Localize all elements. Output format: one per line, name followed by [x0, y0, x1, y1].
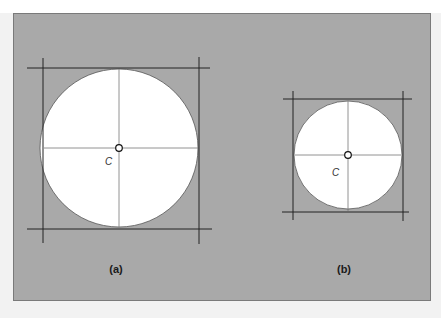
- caption-b: (b): [337, 263, 351, 275]
- figure-a: [27, 57, 212, 244]
- center-label-b: C: [332, 167, 339, 178]
- caption-a: (a): [109, 263, 122, 275]
- center-point-a: [116, 145, 123, 152]
- diagram-canvas: [0, 0, 441, 318]
- center-point-b: [345, 152, 352, 159]
- center-label-a: C: [105, 156, 112, 167]
- figure-b: [282, 91, 412, 221]
